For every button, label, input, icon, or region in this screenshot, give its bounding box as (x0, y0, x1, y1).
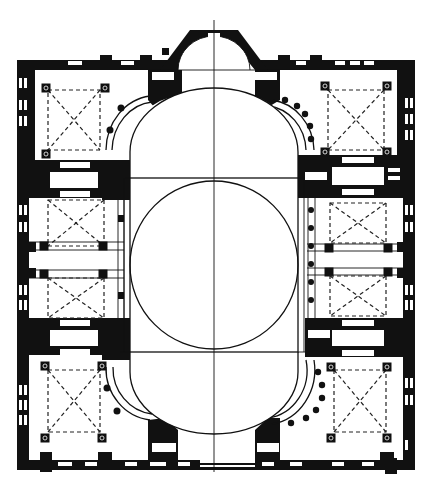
west-colonnade (28, 200, 124, 318)
bay-e-upper (307, 203, 403, 252)
floor-plan (0, 0, 425, 485)
bay-w-upper (29, 200, 124, 250)
nave (120, 88, 305, 434)
bay-w-lower (29, 270, 124, 318)
bay-e-lower (307, 268, 403, 316)
east-colonnade (308, 198, 405, 318)
